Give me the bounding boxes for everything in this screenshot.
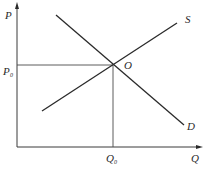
demand-curve-label: D [186,120,195,132]
equilibrium-price-label: P 0 [2,65,13,78]
supply-curve [42,23,177,111]
price-label-main: P [2,65,10,77]
quantity-label-subscript: 0 [114,159,117,165]
x-axis-label: Q [191,152,199,164]
equilibrium-point-label: O [124,59,132,71]
quantity-label-main: Q [106,152,114,164]
price-label-subscript: 0 [10,72,13,78]
supply-curve-label: S [185,13,191,25]
y-axis-arrow-icon [15,2,19,9]
x-axis-arrow-icon [196,145,203,149]
x-axis [17,145,203,149]
y-axis [15,2,19,147]
supply-demand-diagram: P Q S D O P 0 Q 0 [0,0,207,175]
equilibrium-quantity-label: Q 0 [106,152,117,165]
y-axis-label: P [4,9,12,21]
